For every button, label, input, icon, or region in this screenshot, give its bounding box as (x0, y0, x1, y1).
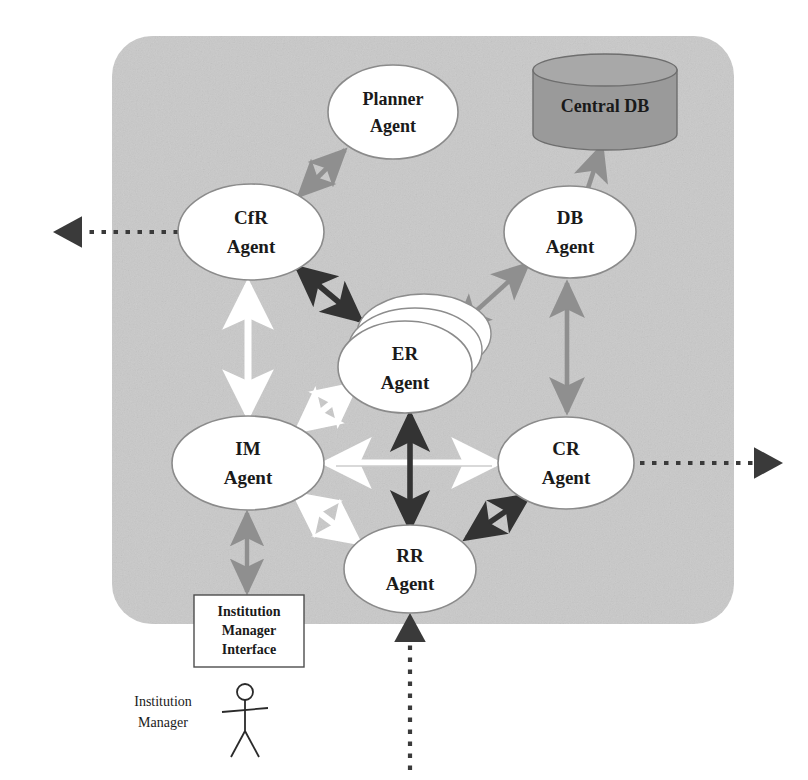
node-er-agent-label-line2: Agent (381, 372, 430, 393)
institution-manager-actor-label-line2: Manager (138, 715, 188, 730)
node-er-agent-label-line1: ER (392, 343, 419, 364)
node-cfr-agent[interactable]: CfR Agent (178, 184, 324, 280)
institution-manager-actor[interactable]: Institution Manager (134, 684, 268, 757)
interface-box-label-line2: Manager (222, 623, 276, 638)
institution-manager-actor-label-line1: Institution (134, 694, 192, 709)
node-cr-agent-label-line2: Agent (542, 467, 591, 488)
node-im-agent-label-line2: Agent (224, 467, 273, 488)
node-rr-agent-label-line1: RR (396, 545, 424, 566)
node-central-db-label: Central DB (561, 96, 650, 116)
node-central-db[interactable]: Central DB (533, 54, 677, 150)
node-cfr-agent-label-line2: Agent (227, 236, 276, 257)
stick-figure-icon (222, 684, 268, 757)
node-cr-agent[interactable]: CR Agent (498, 417, 634, 509)
node-planner-agent[interactable]: Planner Agent (328, 65, 458, 159)
interface-box-label-line3: Interface (222, 642, 276, 657)
node-cr-agent-label-line1: CR (552, 438, 580, 459)
diagram-canvas: Planner Agent Central DB CfR Agent DB Ag… (0, 0, 808, 780)
node-im-agent-label-line1: IM (235, 438, 260, 459)
node-rr-agent-label-line2: Agent (386, 573, 435, 594)
node-cfr-agent-label-line1: CfR (234, 207, 268, 228)
agent-architecture-diagram: Planner Agent Central DB CfR Agent DB Ag… (0, 0, 808, 780)
node-planner-agent-label-line1: Planner (363, 89, 424, 109)
node-rr-agent[interactable]: RR Agent (344, 525, 476, 613)
node-db-agent[interactable]: DB Agent (504, 186, 636, 278)
interface-box-label-line1: Institution (217, 604, 280, 619)
node-db-agent-label-line1: DB (557, 207, 584, 228)
node-db-agent-label-line2: Agent (546, 236, 595, 257)
node-im-agent[interactable]: IM Agent (172, 416, 324, 510)
node-planner-agent-label-line2: Agent (370, 116, 416, 136)
institution-manager-interface-box[interactable]: Institution Manager Interface (194, 595, 304, 667)
